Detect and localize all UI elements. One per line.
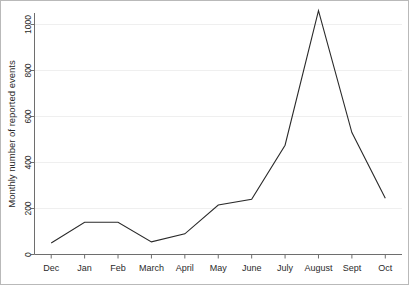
x-tick-label: Dec [43, 263, 60, 273]
x-tick-label: May [210, 263, 228, 273]
x-tick-label: Oct [378, 263, 393, 273]
x-tick-label: June [242, 263, 262, 273]
y-tick-label: 400 [23, 155, 33, 169]
x-tick-label: March [139, 263, 164, 273]
x-tick-label: April [176, 263, 194, 273]
y-tick-label: 800 [23, 63, 33, 77]
x-tick-label: Sept [343, 263, 362, 273]
gridlines-group [35, 25, 403, 209]
y-tick-label: 600 [23, 109, 33, 123]
x-tick-label: Jan [77, 263, 92, 273]
y-tick-label: 200 [23, 201, 33, 215]
chart-figure: 02004006008001000 DecJanFebMarchAprilMay… [0, 0, 409, 285]
x-tick-label: Feb [110, 263, 126, 273]
x-tick-label: July [277, 263, 294, 273]
x-tick-group: DecJanFebMarchAprilMayJuneJulyAugustSept… [43, 255, 393, 273]
y-tick-label: 0 [23, 252, 33, 257]
y-tick-group: 02004006008001000 [23, 15, 35, 257]
line-chart: 02004006008001000 DecJanFebMarchAprilMay… [1, 1, 409, 285]
y-axis-title: Monthly number of reported events [6, 60, 17, 208]
x-tick-label: August [304, 263, 333, 273]
y-tick-label: 1000 [23, 15, 33, 34]
